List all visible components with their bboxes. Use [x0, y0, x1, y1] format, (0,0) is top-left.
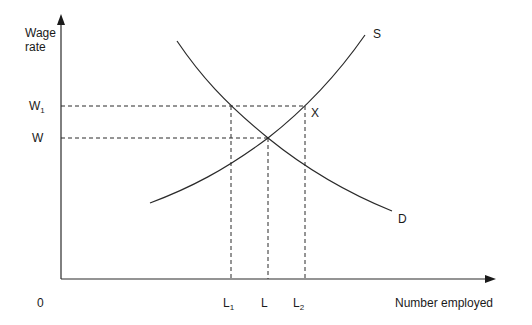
demand-curve	[177, 41, 392, 211]
x-axis-arrow-icon	[485, 275, 496, 283]
origin-label: 0	[37, 296, 44, 310]
x-tick-l1: L1	[223, 296, 234, 315]
supply-curve	[150, 35, 365, 203]
y-axis-label: Wage rate	[25, 26, 56, 54]
y-axis-label-line2: rate	[25, 40, 56, 54]
y-axis-arrow-icon	[57, 14, 65, 25]
demand-label: D	[398, 212, 407, 226]
point-x-label: X	[311, 106, 319, 120]
y-tick-w1: W1	[29, 99, 45, 118]
x-tick-l2: L2	[293, 296, 304, 315]
x-tick-l: L	[261, 296, 268, 310]
y-tick-w: W	[32, 131, 43, 145]
y-axis-label-line1: Wage	[25, 26, 56, 40]
x-axis-label: Number employed	[395, 296, 493, 310]
supply-label: S	[373, 27, 381, 41]
diagram-canvas	[0, 0, 532, 325]
